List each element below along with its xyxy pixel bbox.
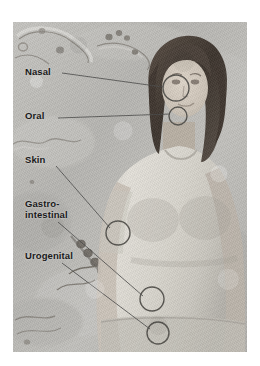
label-skin: Skin — [25, 155, 45, 166]
label-nasal: Nasal — [25, 67, 51, 78]
label-oral: Oral — [25, 111, 44, 122]
label-urogenital: Urogenital — [25, 251, 73, 262]
label-gastrointestinal: Gastro- intestinal — [25, 199, 68, 220]
face — [162, 59, 208, 117]
figure-root: Nasal Oral Skin Gastro- intestinal Uroge… — [0, 0, 260, 366]
